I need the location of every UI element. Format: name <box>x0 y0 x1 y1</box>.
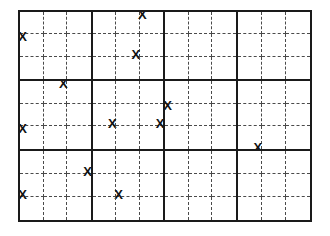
sub-quadrat-r1-c2 <box>212 104 236 126</box>
sub-quadrat-r2-c1 <box>189 126 213 148</box>
sub-quadrat-r0-c0 <box>238 151 262 174</box>
sub-quadrat-r1-c1 <box>189 104 213 126</box>
sub-quadrat-r0-c0 <box>238 12 262 34</box>
major-quadrat-r0-c0: X <box>20 12 93 81</box>
sub-quadrat-r1-c1 <box>116 104 140 126</box>
sub-quadrat-r1-c1: X <box>116 34 140 56</box>
sub-quadrat-r0-c0 <box>20 151 44 174</box>
sub-quadrat-r0-c2: X <box>67 151 91 174</box>
sub-quadrat-r2-c1 <box>44 57 68 79</box>
sub-quadrat-r0-c2 <box>140 151 164 174</box>
sub-quadrat-r2-c0 <box>165 126 189 148</box>
sub-quadrat-r0-c2 <box>286 12 310 34</box>
sub-quadrat-r1-c2 <box>67 104 91 126</box>
sub-quadrat-r2-c0 <box>93 126 117 148</box>
major-quadrat-r0-c2 <box>165 12 238 81</box>
x-mark: X <box>20 121 27 134</box>
major-quadrat-r1-c3: X <box>238 81 311 150</box>
sub-quadrat-r2-c1 <box>262 57 286 79</box>
sub-quadrat-r1-c2 <box>212 174 236 197</box>
sub-quadrat-r1-c0: X <box>20 174 44 197</box>
sub-quadrat-r0-c1 <box>116 12 140 34</box>
sub-quadrat-r1-c2 <box>67 34 91 56</box>
sub-quadrat-r0-c2 <box>67 12 91 34</box>
sub-quadrat-r2-c2 <box>67 126 91 148</box>
sub-quadrat-r1-c2 <box>140 174 164 197</box>
sub-quadrat-grid: XX <box>20 81 91 148</box>
sub-quadrat-r0-c2 <box>67 81 91 103</box>
major-quadrat-r2-c2 <box>165 151 238 220</box>
sub-quadrat-r2-c2 <box>140 197 164 220</box>
sub-quadrat-r0-c1 <box>189 151 213 174</box>
major-quadrat-r1-c2: X <box>165 81 238 150</box>
sub-quadrat-r1-c1 <box>44 174 68 197</box>
sub-quadrat-r0-c2 <box>286 151 310 174</box>
sub-quadrat-r1-c2 <box>212 34 236 56</box>
sub-quadrat-r1-c0 <box>238 34 262 56</box>
sub-quadrat-r0-c0 <box>238 81 262 103</box>
sub-quadrat-r2-c0 <box>20 197 44 220</box>
sub-quadrat-r1-c0: X <box>93 104 117 126</box>
sub-quadrat-r2-c2 <box>286 57 310 79</box>
sub-quadrat-r2-c2 <box>140 57 164 79</box>
sub-quadrat-r1-c1 <box>262 104 286 126</box>
sub-quadrat-r0-c2 <box>212 151 236 174</box>
major-quadrat-r0-c3 <box>238 12 311 81</box>
sub-quadrat-r2-c0 <box>93 57 117 79</box>
sub-quadrat-r0-c1 <box>189 12 213 34</box>
sub-quadrat-r0-c0 <box>165 151 189 174</box>
sub-quadrat-r2-c2 <box>286 126 310 148</box>
sub-quadrat-r1-c0 <box>165 34 189 56</box>
sub-quadrat-r2-c0 <box>165 57 189 79</box>
sub-quadrat-r0-c2 <box>140 81 164 103</box>
sub-quadrat-r1-c1: X <box>116 174 140 197</box>
sub-quadrat-r0-c1: X <box>44 81 68 103</box>
sub-quadrat-r2-c0 <box>238 197 262 220</box>
sub-quadrat-r2-c1 <box>189 197 213 220</box>
major-quadrat-r1-c1: XX <box>93 81 166 150</box>
sub-quadrat-grid <box>165 151 236 220</box>
sub-quadrat-grid: XX <box>20 151 91 220</box>
major-quadrat-r2-c1: X <box>93 151 166 220</box>
sub-quadrat-r1-c2 <box>140 34 164 56</box>
sub-quadrat-r2-c1 <box>189 57 213 79</box>
major-quadrat-r1-c0: XX <box>20 81 93 150</box>
sub-quadrat-r0-c0 <box>93 81 117 103</box>
major-quadrat-r2-c0: XX <box>20 151 93 220</box>
sub-quadrat-r0-c2 <box>212 81 236 103</box>
sub-quadrat-r0-c1 <box>44 151 68 174</box>
sampling-grid: XXXXXXXXXXXX <box>18 10 312 222</box>
sub-quadrat-r0-c0 <box>93 151 117 174</box>
sub-quadrat-r2-c2 <box>67 57 91 79</box>
sub-quadrat-r0-c1 <box>44 12 68 34</box>
sub-quadrat-r1-c0 <box>93 34 117 56</box>
sub-quadrat-r1-c1 <box>44 34 68 56</box>
sub-quadrat-r0-c2 <box>286 81 310 103</box>
sub-quadrat-grid: XX <box>93 12 164 79</box>
sub-quadrat-grid <box>238 12 311 79</box>
sub-quadrat-r1-c0: X <box>20 34 44 56</box>
sub-quadrat-r2-c2 <box>140 126 164 148</box>
sub-quadrat-r1-c0 <box>238 104 262 126</box>
x-mark: X <box>20 30 27 43</box>
sub-quadrat-r2-c1 <box>262 197 286 220</box>
sub-quadrat-r1-c1 <box>262 174 286 197</box>
sub-quadrat-grid: X <box>238 81 311 148</box>
sub-quadrat-r2-c0 <box>93 197 117 220</box>
sub-quadrat-r1-c2: X <box>140 104 164 126</box>
sub-quadrat-r0-c1 <box>262 12 286 34</box>
sub-quadrat-r2-c2 <box>212 57 236 79</box>
major-quadrat-r0-c1: XX <box>93 12 166 81</box>
sub-quadrat-r2-c2 <box>212 126 236 148</box>
sub-quadrat-r2-c1 <box>116 57 140 79</box>
sub-quadrat-r1-c1 <box>189 34 213 56</box>
major-quadrat-r2-c3 <box>238 151 311 220</box>
sub-quadrat-r0-c0 <box>165 12 189 34</box>
sub-quadrat-r1-c0 <box>93 174 117 197</box>
sub-quadrat-r2-c2 <box>286 197 310 220</box>
sub-quadrat-grid: X <box>93 151 164 220</box>
sub-quadrat-r2-c0 <box>165 197 189 220</box>
sub-quadrat-r2-c0 <box>20 57 44 79</box>
sub-quadrat-r2-c1 <box>116 197 140 220</box>
sub-quadrat-r0-c2: X <box>140 12 164 34</box>
